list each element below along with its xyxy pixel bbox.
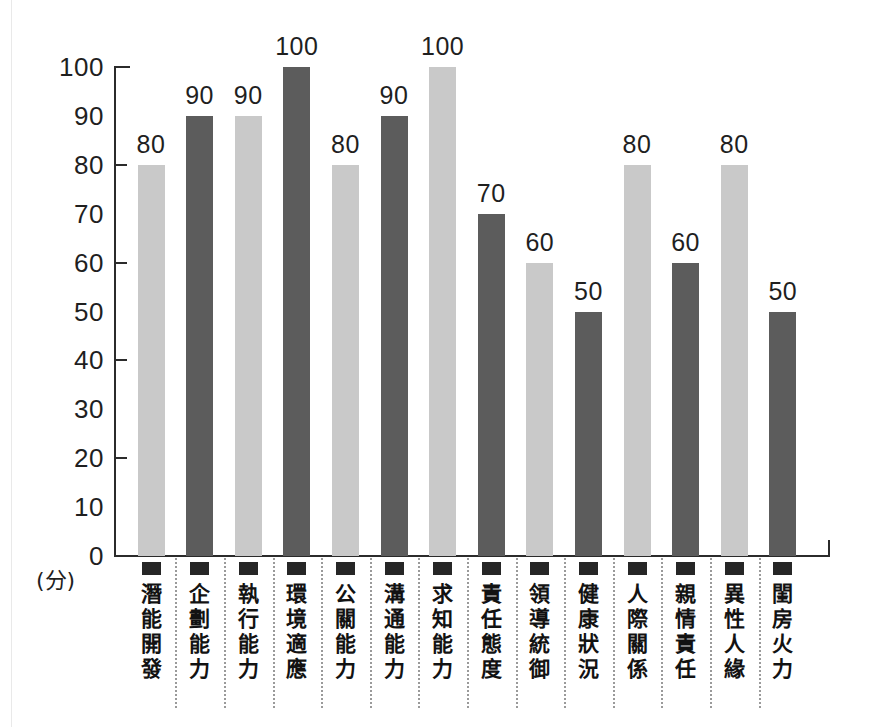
bar-13 xyxy=(721,165,748,556)
category-marker-icon-8 xyxy=(482,562,501,575)
y-axis-label-wrap-80: 80 xyxy=(0,152,104,178)
category-label-8: 責任態度 xyxy=(479,582,503,682)
bar-value-label-1: 80 xyxy=(121,132,181,157)
y-axis-label-wrap-70: 70 xyxy=(0,201,104,227)
y-axis-label-10: 10 xyxy=(4,494,104,520)
bar-14 xyxy=(769,312,796,557)
y-axis-label-wrap-100: 100 xyxy=(0,54,104,80)
y-axis-label-90: 90 xyxy=(4,103,104,129)
bar-6 xyxy=(381,116,408,556)
bar-7 xyxy=(429,67,456,556)
category-marker-icon-7 xyxy=(433,562,452,575)
bar-value-label-9: 60 xyxy=(510,230,570,255)
bar-4 xyxy=(283,67,310,556)
y-axis-label-50: 50 xyxy=(4,299,104,325)
bar-value-label-7: 100 xyxy=(413,34,473,59)
category-label-9: 領導統御 xyxy=(528,582,552,682)
category-label-2: 企劃能力 xyxy=(188,582,212,682)
bar-value-label-13: 80 xyxy=(704,132,764,157)
category-13: 異性人緣 xyxy=(710,562,758,682)
y-axis-label-wrap-60: 60 xyxy=(0,250,104,276)
category-9: 領導統御 xyxy=(516,562,564,682)
y-axis-tick-80 xyxy=(114,164,127,166)
category-6: 溝通能力 xyxy=(370,562,418,682)
category-marker-icon-4 xyxy=(287,562,306,575)
category-marker-icon-13 xyxy=(725,562,744,575)
category-8: 責任態度 xyxy=(467,562,515,682)
category-1: 潛能開發 xyxy=(127,562,175,682)
category-label-13: 異性人緣 xyxy=(722,582,746,682)
category-marker-icon-10 xyxy=(579,562,598,575)
category-12: 親情責任 xyxy=(662,562,710,682)
bar-2 xyxy=(186,116,213,556)
category-label-12: 親情責任 xyxy=(674,582,698,682)
category-marker-icon-5 xyxy=(336,562,355,575)
category-label-14: 閨房火力 xyxy=(771,582,795,682)
category-label-1: 潛能開發 xyxy=(139,582,163,682)
category-marker-icon-6 xyxy=(385,562,404,575)
category-3: 執行能力 xyxy=(224,562,272,682)
category-10: 健康狀況 xyxy=(564,562,612,682)
y-axis-label-20: 20 xyxy=(4,445,104,471)
y-axis-label-0: 0 xyxy=(4,543,104,569)
bar-12 xyxy=(672,263,699,556)
bar-value-label-11: 80 xyxy=(607,132,667,157)
y-axis-label-70: 70 xyxy=(4,201,104,227)
y-axis-label-30: 30 xyxy=(4,396,104,422)
y-axis-tick-60 xyxy=(114,262,127,264)
bar-10 xyxy=(575,312,602,557)
bar-3 xyxy=(235,116,262,556)
category-marker-icon-1 xyxy=(142,562,161,575)
category-label-4: 環境適應 xyxy=(285,582,309,682)
bar-value-label-10: 50 xyxy=(558,279,618,304)
category-label-11: 人際關係 xyxy=(625,582,649,682)
y-axis-label-wrap-40: 40 xyxy=(0,347,104,373)
category-label-6: 溝通能力 xyxy=(382,582,406,682)
category-marker-icon-12 xyxy=(676,562,695,575)
y-axis-top-tick xyxy=(114,66,130,68)
y-axis-unit-label: (分) xyxy=(36,570,75,592)
category-4: 環境適應 xyxy=(273,562,321,682)
bar-value-label-8: 70 xyxy=(461,181,521,206)
y-axis-tick-40 xyxy=(114,359,127,361)
category-marker-icon-2 xyxy=(190,562,209,575)
y-axis-label-wrap-10: 10 xyxy=(0,494,104,520)
y-axis-label-wrap-0: 0 xyxy=(0,543,104,569)
category-14: 閨房火力 xyxy=(759,562,807,682)
bar-11 xyxy=(624,165,651,556)
category-marker-icon-9 xyxy=(530,562,549,575)
category-marker-icon-11 xyxy=(628,562,647,575)
y-axis-label-80: 80 xyxy=(4,152,104,178)
category-2: 企劃能力 xyxy=(176,562,224,682)
category-11: 人際關係 xyxy=(613,562,661,682)
y-axis-label-wrap-90: 90 xyxy=(0,103,104,129)
bar-1 xyxy=(138,165,165,556)
category-label-3: 執行能力 xyxy=(236,582,260,682)
y-axis-label-60: 60 xyxy=(4,250,104,276)
bar-value-label-6: 90 xyxy=(364,83,424,108)
chart-page: 1009080706050403020100 (分) 8090901008090… xyxy=(0,0,873,727)
bar-9 xyxy=(526,263,553,556)
y-axis-label-wrap-20: 20 xyxy=(0,445,104,471)
y-axis-line xyxy=(114,66,116,557)
bar-value-label-12: 60 xyxy=(656,230,716,255)
category-label-7: 求知能力 xyxy=(431,582,455,682)
category-marker-icon-14 xyxy=(773,562,792,575)
bar-8 xyxy=(478,214,505,556)
bar-value-label-5: 80 xyxy=(315,132,375,157)
bar-5 xyxy=(332,165,359,556)
y-axis-label-40: 40 xyxy=(4,347,104,373)
x-axis-end-tick xyxy=(828,540,830,557)
y-axis-label-100: 100 xyxy=(4,54,104,80)
category-5: 公關能力 xyxy=(321,562,369,682)
y-axis-label-wrap-50: 50 xyxy=(0,299,104,325)
bar-value-label-4: 100 xyxy=(267,34,327,59)
y-axis-label-wrap-30: 30 xyxy=(0,396,104,422)
bar-value-label-14: 50 xyxy=(753,279,813,304)
category-7: 求知能力 xyxy=(419,562,467,682)
bar-chart: 1009080706050403020100 (分) 8090901008090… xyxy=(0,0,873,727)
category-marker-icon-3 xyxy=(239,562,258,575)
bar-value-label-3: 90 xyxy=(218,83,278,108)
y-axis-tick-20 xyxy=(114,457,127,459)
category-label-10: 健康狀況 xyxy=(576,582,600,682)
